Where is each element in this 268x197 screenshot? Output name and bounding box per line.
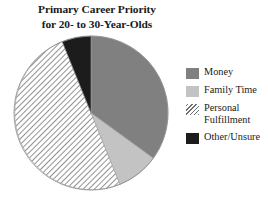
pie-plot-area [0,0,186,197]
legend-swatch-other-unsure-icon [186,133,199,144]
legend-item-other-unsure[interactable]: Other/Unsure [186,131,268,144]
pie-chart-figure: Primary Career Priority for 20- to 30-Ye… [0,0,268,197]
chart-legend: Money Family Time Personal Fulfillment O… [186,66,268,149]
legend-item-personal-fulfillment[interactable]: Personal Fulfillment [186,102,268,126]
legend-item-family-time[interactable]: Family Time [186,84,268,97]
legend-label-family-time: Family Time [204,84,257,96]
pie-svg [0,0,186,197]
legend-label-other-unsure: Other/Unsure [204,131,260,143]
legend-label-money: Money [204,66,233,78]
legend-swatch-family-time-icon [186,86,199,97]
legend-swatch-money-icon [186,68,199,79]
legend-swatch-personal-fulfillment-icon [186,104,199,115]
legend-item-money[interactable]: Money [186,66,268,79]
legend-label-personal-fulfillment: Personal Fulfillment [204,102,250,126]
pie-slices-group [14,36,168,190]
